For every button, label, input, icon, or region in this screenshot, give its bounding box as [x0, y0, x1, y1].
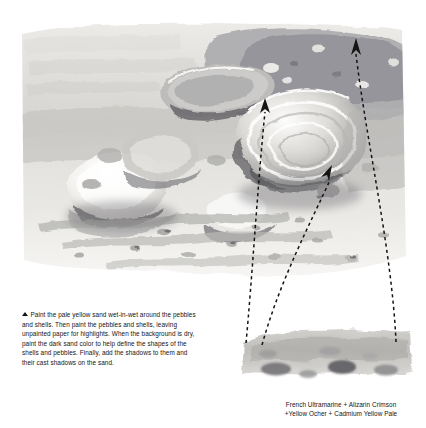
caption-left-body: Paint the pale yellow sand wet-in-wet ar… — [22, 311, 196, 366]
page-root: Paint the pale yellow sand wet-in-wet ar… — [0, 0, 426, 428]
watercolor-painting — [18, 18, 410, 286]
pigment-mix-line-1: French Ultramarine + Alizarin Crimson — [256, 400, 426, 409]
pigment-mix-line-2: +Yellow Ocher + Cadmium Yellow Pale — [256, 409, 426, 418]
caption-left-text: Paint the pale yellow sand wet-in-wet ar… — [22, 310, 198, 368]
triangle-up-icon — [22, 312, 28, 316]
caption-left: Paint the pale yellow sand wet-in-wet ar… — [22, 310, 198, 368]
caption-right: French Ultramarine + Alizarin Crimson +Y… — [256, 400, 426, 418]
mixed-wash-swatch — [238, 318, 416, 390]
